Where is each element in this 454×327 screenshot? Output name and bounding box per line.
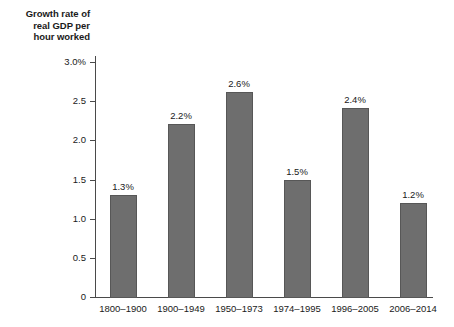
bar-value-1996-2005: 2.4% bbox=[328, 95, 382, 105]
y-tick-label-0.5: 0.5 bbox=[26, 253, 86, 263]
bar-1950-1973[interactable] bbox=[226, 92, 253, 298]
y-tick-mark-1.0 bbox=[90, 219, 95, 220]
x-tick-label-1996-2005: 1996–2005 bbox=[323, 303, 387, 314]
y-tick-mark-0 bbox=[90, 297, 95, 298]
y-axis-line bbox=[95, 56, 96, 298]
y-tick-mark-2.0 bbox=[90, 140, 95, 141]
bar-value-1950-1973: 2.6% bbox=[212, 79, 266, 89]
y-tick-label-0: 0 bbox=[26, 292, 86, 302]
bar-1800-1900[interactable] bbox=[110, 195, 137, 298]
x-axis-line bbox=[95, 297, 433, 298]
bar-value-1974-1995: 1.5% bbox=[270, 167, 324, 177]
bar-value-2006-2014: 1.2% bbox=[386, 190, 440, 200]
y-tick-mark-1.5 bbox=[90, 180, 95, 181]
x-tick-label-2006-2014: 2006–2014 bbox=[381, 303, 445, 314]
bar-chart-figure: Growth rate of real GDP per hour worked … bbox=[0, 0, 454, 327]
y-tick-label-2.5: 2.5 bbox=[26, 96, 86, 106]
y-tick-label-1.0: 1.0 bbox=[26, 214, 86, 224]
x-tick-label-1800-1900: 1800–1900 bbox=[91, 303, 155, 314]
y-tick-label-3.0: 3.0% bbox=[26, 57, 86, 67]
y-tick-mark-0.5 bbox=[90, 258, 95, 259]
y-tick-label-2.0: 2.0 bbox=[26, 135, 86, 145]
bar-2006-2014[interactable] bbox=[400, 203, 427, 298]
bar-1996-2005[interactable] bbox=[342, 108, 369, 298]
x-tick-label-1900-1949: 1900–1949 bbox=[149, 303, 213, 314]
y-tick-mark-3.0 bbox=[90, 62, 95, 63]
bar-value-1800-1900: 1.3% bbox=[96, 182, 150, 192]
x-tick-label-1950-1973: 1950–1973 bbox=[207, 303, 271, 314]
bar-value-1900-1949: 2.2% bbox=[154, 111, 208, 121]
bar-1974-1995[interactable] bbox=[284, 180, 311, 298]
x-tick-label-1974-1995: 1974–1995 bbox=[265, 303, 329, 314]
y-tick-label-1.5: 1.5 bbox=[26, 175, 86, 185]
y-tick-mark-2.5 bbox=[90, 101, 95, 102]
bar-1900-1949[interactable] bbox=[168, 124, 195, 298]
chart-axis-title: Growth rate of real GDP per hour worked bbox=[6, 8, 90, 43]
